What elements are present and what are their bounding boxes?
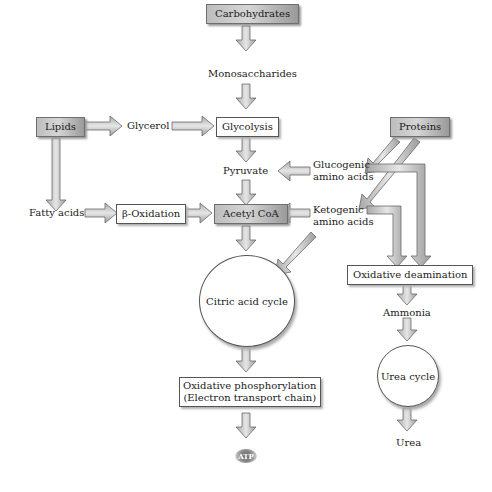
node-beta-oxidation: β-Oxidation bbox=[116, 204, 186, 224]
oxphos-line-2: (Electron transport chain) bbox=[183, 392, 317, 404]
arrow-oxdeam-ammonia bbox=[397, 282, 417, 305]
node-lipids: Lipids bbox=[36, 117, 85, 137]
node-proteins: Proteins bbox=[390, 117, 450, 137]
node-acetyl-coa: Acetyl CoA bbox=[214, 204, 288, 224]
node-ammonia: Ammonia bbox=[383, 307, 431, 319]
oxphos-line-1: Oxidative phosphorylation bbox=[183, 380, 317, 392]
glucogenic-line-1: Glucogenic bbox=[313, 159, 374, 171]
arrow-oxphos-atp bbox=[236, 413, 256, 438]
arrow-ammonia-urea-cycle bbox=[397, 318, 417, 341]
node-urea-cycle: Urea cycle bbox=[377, 345, 439, 407]
urea-cycle-label: Urea cycle bbox=[381, 371, 435, 382]
node-glucogenic-amino-acids: Glucogenic amino acids bbox=[313, 159, 374, 183]
node-pyruvate: Pyruvate bbox=[223, 165, 268, 177]
atp-label: ATP bbox=[238, 452, 254, 461]
arrow-beta-oxidation-acetyl-coa bbox=[184, 203, 212, 223]
arrow-pyruvate-acetyl-coa bbox=[236, 180, 256, 205]
arrow-fatty-acids-beta-oxidation bbox=[85, 203, 117, 223]
node-fatty-acids: Fatty acids bbox=[29, 207, 84, 219]
arrow-monosaccharides-glycolysis bbox=[236, 84, 256, 109]
arrow-glucogenic-pyruvate bbox=[278, 161, 310, 181]
arrow-lipids-glycerol bbox=[80, 116, 122, 136]
arrow-lipids-fatty-acids bbox=[46, 138, 66, 211]
arrow-glycolysis-pyruvate bbox=[236, 137, 256, 162]
citric-acid-cycle-label: Citric acid cycle bbox=[206, 296, 288, 307]
node-oxidative-deamination: Oxidative deamination bbox=[347, 265, 473, 285]
node-ketogenic-amino-acids: Ketogenic amino acids bbox=[313, 204, 374, 228]
node-urea: Urea bbox=[396, 437, 421, 449]
glucogenic-line-2: amino acids bbox=[313, 171, 374, 183]
node-monosaccharides: Monosaccharides bbox=[208, 68, 297, 80]
node-glycerol: Glycerol bbox=[127, 120, 169, 132]
node-glycolysis: Glycolysis bbox=[216, 117, 279, 137]
arrow-carbohydrates-monosaccharides bbox=[236, 26, 256, 51]
arrow-acetyl-coa-citric bbox=[236, 226, 256, 251]
ketogenic-line-2: amino acids bbox=[313, 216, 374, 228]
arrow-citric-oxphos bbox=[236, 347, 256, 372]
node-carbohydrates: Carbohydrates bbox=[206, 4, 299, 24]
arrow-urea-cycle-urea bbox=[397, 408, 417, 431]
arrow-glycerol-glycolysis bbox=[172, 116, 214, 136]
node-oxidative-phosphorylation: Oxidative phosphorylation (Electron tran… bbox=[179, 377, 321, 407]
node-atp: ATP bbox=[235, 449, 257, 463]
node-citric-acid-cycle: Citric acid cycle bbox=[199, 255, 295, 347]
ketogenic-line-1: Ketogenic bbox=[313, 204, 374, 216]
